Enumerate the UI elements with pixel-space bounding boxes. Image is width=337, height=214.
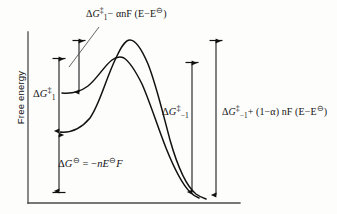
subscript-1: 1 <box>52 93 56 102</box>
subscript-minus-1: −1 <box>181 111 189 120</box>
reduced-state-curve <box>62 57 199 198</box>
standard-state-symbol: ⊖ <box>73 156 80 165</box>
label-standard-free-energy: ΔG⊖ = −nE⊖F <box>58 158 123 169</box>
delta-symbol: Δ <box>33 88 40 99</box>
label-activation-reverse-shifted: ΔG‡−1+ (1−α) nF (E−E⊖) <box>222 106 327 117</box>
subscript-minus-1: −1 <box>240 112 248 120</box>
label-activation-forward: ΔG‡1 <box>33 88 56 99</box>
label-activation-forward-shifted: ΔG‡1− αnF (E−E⊖) <box>86 8 167 19</box>
closing-paren: ) <box>324 106 327 117</box>
delta-symbol: Δ <box>58 158 65 169</box>
leader-line <box>69 27 99 67</box>
delta-G-minus1-shifted-arrow <box>210 41 223 196</box>
annotation-arrow-group <box>53 41 223 196</box>
y-axis-label: Free energy <box>15 52 26 144</box>
delta-symbol: Δ <box>162 106 169 117</box>
axis-group <box>28 32 240 203</box>
g-symbol: G <box>93 8 100 19</box>
label-remainder: + (1−α) nF (E−E <box>248 106 317 117</box>
g-symbol: G <box>229 106 236 117</box>
g-symbol: G <box>65 158 73 169</box>
equals-sign: = − <box>80 158 98 169</box>
g-symbol: G <box>40 88 48 99</box>
delta-G-minus1-arrow <box>186 63 199 193</box>
label-activation-reverse: ΔG‡−1 <box>162 106 189 117</box>
label-remainder: − αnF (E−E <box>108 8 157 19</box>
g-symbol: G <box>169 106 177 117</box>
standard-state-symbol: ⊖ <box>317 104 324 113</box>
f-symbol: F <box>116 158 123 169</box>
closing-paren: ) <box>163 8 166 19</box>
free-energy-diagram: Free energy ΔG‡1− αnF (E−E⊖) ΔG‡1 ΔG⊖ = … <box>0 0 337 214</box>
